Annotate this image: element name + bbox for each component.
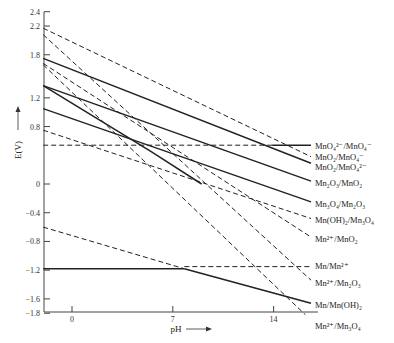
curve-label: MnO₄²⁻/MnO₄⁻	[315, 141, 372, 151]
curve-label: Mn²⁺/Mn₂O₃	[315, 278, 361, 288]
curve-label: Mn/Mn(OH)₂	[315, 300, 362, 310]
y-tick-label: −1.2	[25, 266, 40, 275]
pourbaix-diagram: 2.42.21.81.20.80−0.4−0.8−1.2−1.6−1.8 071…	[0, 0, 394, 343]
y-tick-label: −1.6	[25, 295, 40, 304]
y-axis-arrow-icon	[16, 106, 21, 112]
curve-label: Mn²⁺/MnO₂	[315, 234, 358, 244]
curve-label: MnO₂/MnO₄⁻	[315, 152, 364, 162]
y-tick-label: 2.2	[30, 22, 40, 31]
y-tick-label: 0	[36, 180, 40, 189]
curve-label: Mn²⁺/Mn₃O₄	[315, 321, 361, 331]
y-tick-label: −1.8	[25, 309, 40, 318]
y-axis-label: E(V)	[13, 141, 23, 159]
x-axis-arrow-icon	[206, 327, 212, 332]
x-tick-label: 0	[70, 315, 74, 324]
y-tick-label: 0.8	[30, 123, 40, 132]
x-ticks: 0714	[70, 306, 278, 324]
curve-labels: MnO₄²⁻/MnO₄⁻MnO₂/MnO₄⁻MnO₂/MnO₄²⁻Mn₂O₃/M…	[315, 141, 374, 331]
curve-label: Mn₃O₄/Mn₂O₃	[315, 199, 365, 209]
x-axis-label: pH	[171, 324, 183, 334]
y-tick-label: −0.8	[25, 237, 40, 246]
curve-mn-mn3o4	[43, 65, 305, 315]
y-tick-label: 2.4	[30, 8, 40, 17]
curve-mn2o3-mno2	[43, 86, 311, 182]
curve-mn-mn-oh-2	[184, 269, 311, 304]
curve-label: Mn(OH)₂/Mn₃O₄	[315, 215, 374, 225]
curve-label: Mn₂O₃/MnO₂	[315, 178, 362, 188]
y-tick-label: −0.4	[25, 209, 40, 218]
curve-mn-mn-oh-2	[43, 227, 184, 269]
y-tick-label: 1.2	[30, 94, 40, 103]
curve-mn-mn2o3	[43, 35, 311, 281]
y-axis-title: E(V)	[13, 141, 23, 159]
x-tick-label: 7	[171, 315, 175, 324]
curve-mn-mno2	[43, 63, 311, 237]
curve-mno2-mno4-	[43, 28, 311, 157]
curve-label: MnO₂/MnO₄²⁻	[315, 162, 367, 172]
curve-solid-steep	[43, 86, 201, 184]
curves	[43, 28, 311, 315]
x-tick-label: 14	[270, 315, 278, 324]
curve-label: Mn/Mn²⁺	[315, 261, 349, 271]
curve-mn3o4-mn2o3	[43, 109, 311, 202]
curve-mn-oh-2-mn3o4	[43, 130, 311, 218]
y-tick-label: 1.8	[30, 51, 40, 60]
y-ticks: 2.42.21.81.20.80−0.4−0.8−1.2−1.6−1.8	[25, 8, 50, 319]
